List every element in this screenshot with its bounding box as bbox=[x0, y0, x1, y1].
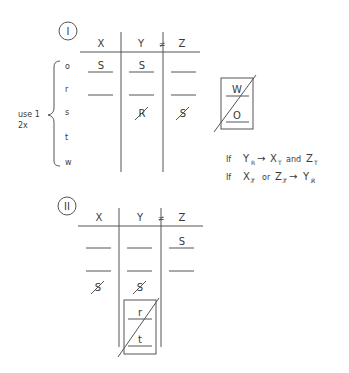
bottom-box-bottom: t bbox=[138, 334, 142, 345]
brace-label-line1: use 1 bbox=[18, 110, 40, 119]
diagram-label: II bbox=[64, 201, 70, 212]
row-label-r: r bbox=[65, 85, 69, 94]
rule-cond-2-sub: T̸ bbox=[282, 177, 287, 184]
cell-o-y: S bbox=[139, 60, 145, 71]
cell-o-x: S bbox=[98, 60, 104, 71]
rule-prefix: If bbox=[226, 173, 231, 182]
header-x: X bbox=[98, 38, 105, 49]
header-y: Y bbox=[136, 212, 144, 223]
rule-2: If X T̸ or Z T̸ → Y R̸ bbox=[226, 171, 315, 184]
bottom-box-top: r bbox=[138, 307, 143, 318]
row-label-o: o bbox=[65, 62, 70, 71]
arrow-icon: → bbox=[257, 153, 265, 164]
diagram-two: II X Y ≠ Z S S S r t bbox=[58, 197, 203, 357]
side-box-bottom: O bbox=[233, 110, 241, 121]
diagram-one: I X Y ≠ Z use 1 2x o r s t w S S R S bbox=[18, 22, 318, 184]
rule-cond: Y bbox=[242, 153, 250, 164]
header-z: Z bbox=[179, 38, 186, 49]
rule-result-1-sub: T bbox=[277, 159, 282, 166]
rule-conj: or bbox=[262, 173, 271, 182]
row-label-w: w bbox=[65, 158, 72, 167]
rule-result-1-sub: R̸ bbox=[310, 177, 315, 184]
rule-result-2-sub: T bbox=[313, 159, 318, 166]
rule-cond-sub: R bbox=[251, 159, 255, 166]
brace bbox=[48, 61, 60, 166]
diagram-label: I bbox=[67, 26, 70, 37]
not-equal-sign: ≠ bbox=[159, 40, 166, 49]
rule-cond-2: Z bbox=[275, 171, 282, 182]
logic-diagram: I X Y ≠ Z use 1 2x o r s t w S S R S bbox=[0, 0, 349, 373]
rule-cond-sub: T̸ bbox=[250, 177, 255, 184]
rule-conj: and bbox=[286, 155, 301, 164]
rule-1: If Y R → X T and Z T bbox=[226, 153, 318, 166]
header-z: Z bbox=[179, 212, 186, 223]
side-box-top: W bbox=[232, 84, 242, 95]
cell-r1-z: S bbox=[179, 236, 185, 247]
brace-label-line2: 2x bbox=[18, 121, 28, 130]
row-label-s: s bbox=[65, 108, 69, 117]
row-label-t: t bbox=[65, 133, 68, 142]
arrow-icon: → bbox=[289, 171, 297, 182]
header-x: X bbox=[96, 212, 103, 223]
header-y: Y bbox=[137, 38, 145, 49]
rule-cond: X bbox=[243, 171, 250, 182]
rule-result-1: X bbox=[270, 153, 277, 164]
rule-result-2: Z bbox=[306, 153, 313, 164]
rule-result-1: Y bbox=[302, 171, 310, 182]
rule-prefix: If bbox=[226, 155, 231, 164]
